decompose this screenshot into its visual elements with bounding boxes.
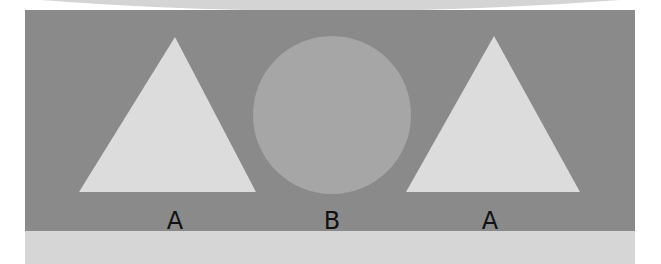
bottom-band — [25, 231, 635, 264]
label-left: A — [167, 207, 184, 235]
shapes-diagram: A B A — [0, 0, 661, 264]
label-center: B — [324, 207, 340, 235]
top-arc — [40, 0, 620, 11]
label-right: A — [482, 207, 499, 235]
circle-shape — [253, 36, 411, 194]
